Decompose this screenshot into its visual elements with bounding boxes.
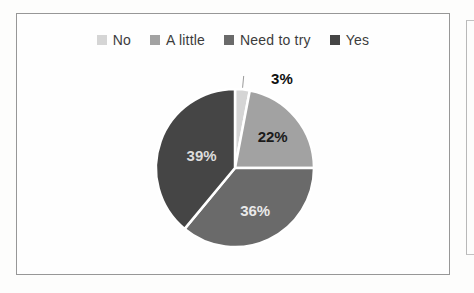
leader-line-no <box>243 76 244 88</box>
adjacent-figure-edge <box>466 20 474 255</box>
pie-chart: 3%22%36%39% <box>0 0 474 293</box>
data-label-a-little: 22% <box>258 128 288 145</box>
data-label-need-to-try: 36% <box>240 202 270 219</box>
data-label-no: 3% <box>271 70 293 87</box>
data-label-yes: 39% <box>187 147 217 164</box>
scanned-document-page: No A little Need to try Yes 3%22%36%39% <box>0 0 474 293</box>
